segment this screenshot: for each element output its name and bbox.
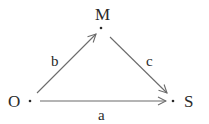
triangle-diagram: M O S b c a bbox=[0, 0, 209, 124]
edge-o-to-m-arrow bbox=[37, 34, 96, 93]
node-o-dot bbox=[29, 100, 32, 103]
edge-label-a: a bbox=[98, 107, 105, 123]
node-s-dot bbox=[172, 100, 175, 103]
node-o-label: O bbox=[8, 92, 20, 111]
node-m-dot bbox=[100, 27, 103, 30]
node-s-label: S bbox=[184, 92, 193, 111]
edge-m-to-s-arrow bbox=[110, 37, 167, 93]
edge-label-c: c bbox=[146, 53, 153, 69]
edge-label-b: b bbox=[51, 53, 59, 69]
node-m-label: M bbox=[95, 5, 110, 24]
